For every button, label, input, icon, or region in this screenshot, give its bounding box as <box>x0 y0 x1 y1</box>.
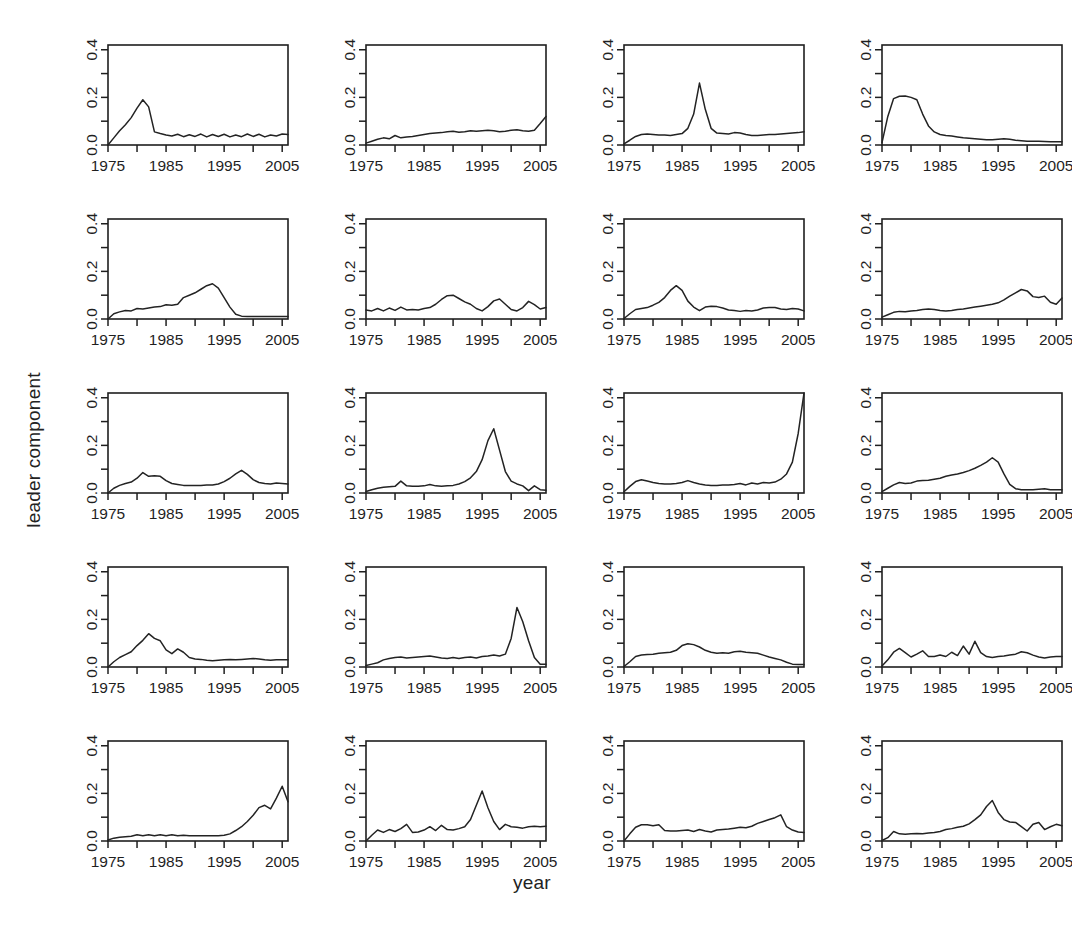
chart-panel-15: 19751985199520050.00.20.4 <box>574 559 814 709</box>
x-tick-label: 1975 <box>91 157 125 174</box>
x-tick-label: 1995 <box>207 505 241 522</box>
chart-panel-7: 19751985199520050.00.20.4 <box>574 211 814 361</box>
x-tick-label: 2005 <box>523 505 557 522</box>
y-tick-label: 0.2 <box>83 261 100 283</box>
x-tick-label: 1975 <box>91 505 125 522</box>
y-tick-label: 0.2 <box>341 609 358 631</box>
plot-border <box>108 393 288 493</box>
plot-border <box>624 219 804 319</box>
x-tick-label: 2005 <box>1039 157 1072 174</box>
y-tick-label: 0.4 <box>857 39 874 61</box>
chart-panel-2: 19751985199520050.00.20.4 <box>316 37 556 187</box>
x-tick-label: 2005 <box>265 157 299 174</box>
chart-panel-20: 19751985199520050.00.20.4 <box>832 733 1072 883</box>
x-tick-label: 1985 <box>149 853 183 870</box>
y-tick-label: 0.2 <box>857 435 874 457</box>
series-line <box>366 429 546 492</box>
y-tick-label: 0.0 <box>599 830 616 852</box>
x-tick-label: 2005 <box>1039 679 1072 696</box>
x-tick-label: 1985 <box>923 853 957 870</box>
x-tick-label: 1995 <box>465 505 499 522</box>
plot-border <box>108 219 288 319</box>
series-line <box>624 644 804 667</box>
x-tick-label: 1995 <box>981 157 1015 174</box>
chart-panel-4: 19751985199520050.00.20.4 <box>832 37 1072 187</box>
y-tick-label: 0.2 <box>857 609 874 631</box>
x-tick-label: 1975 <box>865 679 899 696</box>
x-tick-label: 1995 <box>207 679 241 696</box>
x-tick-label: 1985 <box>923 331 957 348</box>
x-tick-label: 1975 <box>607 679 641 696</box>
y-tick-label: 0.2 <box>857 261 874 283</box>
y-tick-label: 0.4 <box>341 735 358 757</box>
chart-panel-10: 19751985199520050.00.20.4 <box>316 385 556 535</box>
y-tick-label: 0.2 <box>83 435 100 457</box>
y-tick-label: 0.0 <box>599 482 616 504</box>
x-tick-label: 1985 <box>407 505 441 522</box>
x-tick-label: 1995 <box>981 853 1015 870</box>
y-tick-label: 0.0 <box>341 134 358 156</box>
x-tick-label: 1995 <box>723 853 757 870</box>
chart-panel-16: 19751985199520050.00.20.4 <box>832 559 1072 709</box>
x-tick-label: 1995 <box>207 157 241 174</box>
x-tick-label: 2005 <box>265 853 299 870</box>
x-tick-label: 2005 <box>781 157 815 174</box>
x-tick-label: 1975 <box>865 505 899 522</box>
y-tick-label: 0.0 <box>341 308 358 330</box>
x-tick-label: 1975 <box>607 331 641 348</box>
series-line <box>108 634 288 667</box>
x-tick-label: 1985 <box>923 505 957 522</box>
y-tick-label: 0.4 <box>341 213 358 235</box>
x-tick-label: 2005 <box>1039 331 1072 348</box>
series-line <box>882 801 1062 841</box>
x-tick-label: 2005 <box>781 679 815 696</box>
x-tick-label: 1995 <box>981 679 1015 696</box>
x-tick-label: 1985 <box>923 679 957 696</box>
x-tick-label: 1975 <box>349 331 383 348</box>
y-tick-label: 0.4 <box>599 735 616 757</box>
x-tick-label: 1995 <box>981 505 1015 522</box>
x-tick-label: 2005 <box>781 505 815 522</box>
x-tick-label: 1975 <box>349 157 383 174</box>
x-tick-label: 2005 <box>265 505 299 522</box>
x-tick-label: 1985 <box>149 679 183 696</box>
y-tick-label: 0.4 <box>341 39 358 61</box>
x-axis-label-text: year <box>513 872 551 893</box>
x-tick-label: 1995 <box>981 331 1015 348</box>
series-line <box>882 458 1062 492</box>
y-tick-label: 0.2 <box>599 609 616 631</box>
y-tick-label: 0.4 <box>599 561 616 583</box>
y-tick-label: 0.0 <box>341 482 358 504</box>
y-tick-label: 0.0 <box>599 134 616 156</box>
y-tick-label: 0.0 <box>341 830 358 852</box>
y-tick-label: 0.4 <box>857 387 874 409</box>
x-tick-label: 2005 <box>523 853 557 870</box>
y-tick-label: 0.4 <box>341 387 358 409</box>
plot-border <box>108 45 288 145</box>
y-tick-label: 0.2 <box>341 435 358 457</box>
x-tick-label: 1995 <box>723 157 757 174</box>
y-tick-label: 0.4 <box>599 213 616 235</box>
y-tick-label: 0.0 <box>83 308 100 330</box>
x-tick-label: 1975 <box>349 505 383 522</box>
chart-panel-3: 19751985199520050.00.20.4 <box>574 37 814 187</box>
x-tick-label: 2005 <box>781 331 815 348</box>
chart-panel-14: 19751985199520050.00.20.4 <box>316 559 556 709</box>
x-tick-label: 2005 <box>523 679 557 696</box>
y-tick-label: 0.4 <box>341 561 358 583</box>
x-tick-label: 2005 <box>523 331 557 348</box>
y-tick-label: 0.0 <box>857 656 874 678</box>
x-tick-label: 2005 <box>265 331 299 348</box>
x-tick-label: 1985 <box>407 157 441 174</box>
y-tick-label: 0.2 <box>83 783 100 805</box>
plot-border <box>366 393 546 493</box>
series-line <box>624 393 804 492</box>
series-line <box>882 641 1062 666</box>
y-tick-label: 0.4 <box>857 735 874 757</box>
chart-panel-5: 19751985199520050.00.20.4 <box>58 211 298 361</box>
x-tick-label: 2005 <box>781 853 815 870</box>
x-tick-label: 1995 <box>465 331 499 348</box>
series-line <box>108 284 288 319</box>
y-tick-label: 0.4 <box>857 213 874 235</box>
